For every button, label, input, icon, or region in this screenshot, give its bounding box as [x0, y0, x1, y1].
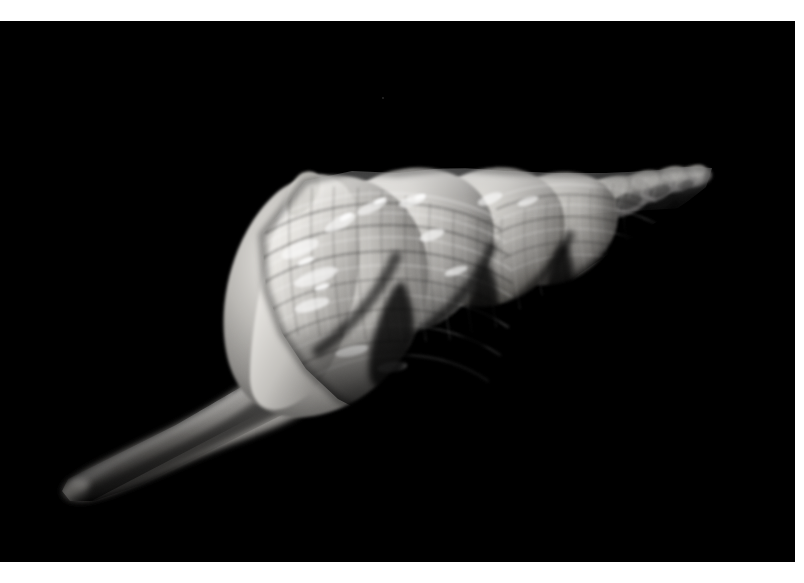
- shell-photograph: [0, 21, 795, 562]
- photo-page: [0, 0, 804, 583]
- film-grain: [0, 21, 795, 562]
- dust-speck: [382, 97, 384, 99]
- shell-illustration: [0, 21, 795, 562]
